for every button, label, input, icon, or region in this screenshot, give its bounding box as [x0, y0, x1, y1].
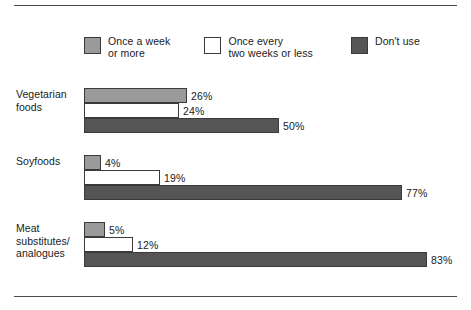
legend-item-label: Once every two weeks or less [228, 36, 313, 60]
bar-value-label: 4% [105, 157, 120, 169]
category-label: Vegetarian foods [16, 88, 80, 113]
chart-plot-area: Vegetarian foods 26% 24% 50% Soyfoods [0, 88, 471, 289]
bar-once-every-two-weeks [84, 170, 160, 185]
category-label: Meat substitutes/ analogues [16, 222, 80, 260]
legend-swatch-icon [84, 37, 101, 54]
bar-once-a-week [84, 222, 105, 237]
bar-dont-use [84, 252, 427, 267]
bar-row: 50% [84, 118, 471, 133]
bar-value-label: 19% [164, 172, 185, 184]
chart-legend: Once a week or more Once every two weeks… [84, 36, 461, 60]
bar-once-a-week [84, 88, 187, 103]
bar-row: 24% [84, 103, 471, 118]
bar-value-label: 24% [183, 105, 204, 117]
bar-row: 26% [84, 88, 471, 103]
bar-value-label: 5% [109, 224, 124, 236]
bar-value-label: 83% [431, 254, 452, 266]
legend-item-label: Don't use [375, 36, 420, 48]
bar-row: 83% [84, 252, 471, 267]
bar-once-every-two-weeks [84, 237, 133, 252]
bar-row: 77% [84, 185, 471, 200]
bar-row: 4% [84, 155, 471, 170]
bar-group: Vegetarian foods 26% 24% 50% [0, 88, 471, 133]
legend-item-dont-use: Don't use [351, 36, 420, 54]
bar-dont-use [84, 118, 279, 133]
bar-group-bars: 4% 19% 77% [84, 155, 471, 200]
bar-group: Soyfoods 4% 19% 77% [0, 155, 471, 200]
legend-item-label: Once a week or more [108, 36, 170, 60]
bottom-divider-rule [14, 296, 457, 297]
bar-once-a-week [84, 155, 101, 170]
bar-dont-use [84, 185, 402, 200]
bar-once-every-two-weeks [84, 103, 179, 118]
bar-row: 5% [84, 222, 471, 237]
legend-item-once-every-two-weeks: Once every two weeks or less [204, 36, 313, 60]
bar-group-bars: 26% 24% 50% [84, 88, 471, 133]
bar-value-label: 50% [283, 120, 304, 132]
legend-swatch-icon [204, 37, 221, 54]
top-divider-rule [14, 5, 457, 6]
bar-group-bars: 5% 12% 83% [84, 222, 471, 267]
category-label: Soyfoods [16, 155, 80, 168]
legend-swatch-icon [351, 37, 368, 54]
bar-row: 12% [84, 237, 471, 252]
bar-row: 19% [84, 170, 471, 185]
legend-item-once-a-week: Once a week or more [84, 36, 170, 60]
chart-figure: Once a week or more Once every two weeks… [0, 0, 471, 310]
bar-value-label: 77% [406, 187, 427, 199]
bar-value-label: 12% [137, 239, 158, 251]
bar-group: Meat substitutes/ analogues 5% 12% 83% [0, 222, 471, 267]
bar-value-label: 26% [191, 90, 212, 102]
